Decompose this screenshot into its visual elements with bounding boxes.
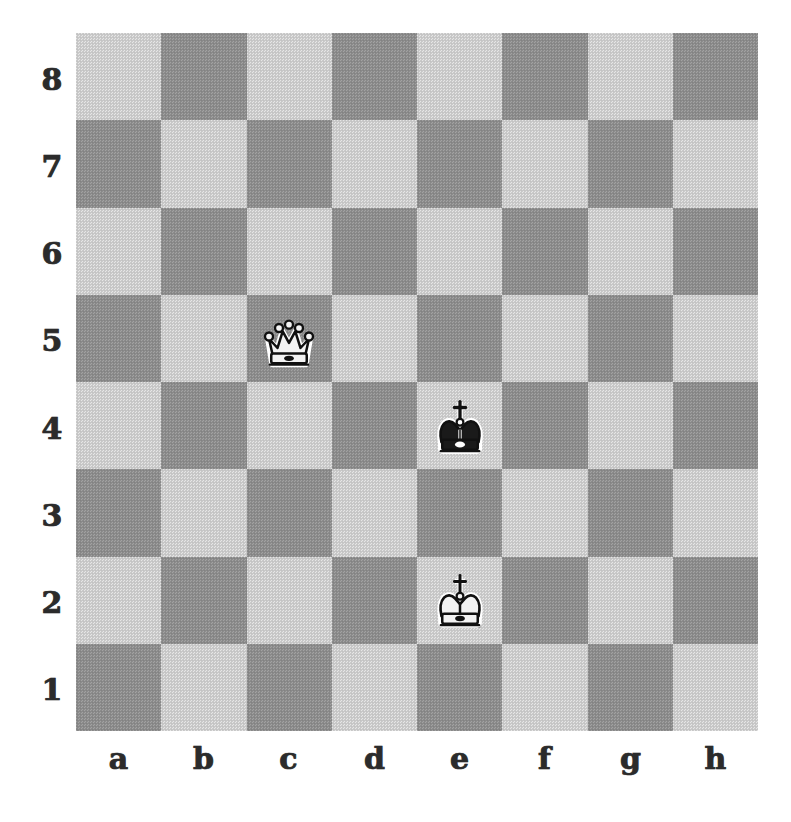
square-d8[interactable]	[332, 33, 417, 120]
square-c1[interactable]	[247, 644, 332, 731]
square-f5[interactable]	[502, 295, 587, 382]
square-f8[interactable]	[502, 33, 587, 120]
square-g5[interactable]	[588, 295, 673, 382]
square-g7[interactable]	[588, 120, 673, 207]
file-label-a: a	[76, 744, 161, 782]
square-c7[interactable]	[247, 120, 332, 207]
square-d3[interactable]	[332, 469, 417, 556]
chess-diagram: 8 7 6 5 4 3 2 1 a b c d e f g h	[0, 0, 791, 822]
chess-board-grid	[76, 33, 758, 731]
square-h8[interactable]	[673, 33, 758, 120]
rank-label-3: 3	[32, 501, 72, 531]
square-e5[interactable]	[417, 295, 502, 382]
rank-label-4: 4	[32, 414, 72, 444]
square-c3[interactable]	[247, 469, 332, 556]
square-e3[interactable]	[417, 469, 502, 556]
square-h5[interactable]	[673, 295, 758, 382]
square-a8[interactable]	[76, 33, 161, 120]
rank-label-8: 8	[32, 65, 72, 95]
square-h7[interactable]	[673, 120, 758, 207]
square-c8[interactable]	[247, 33, 332, 120]
square-c2[interactable]	[247, 557, 332, 644]
square-e2[interactable]	[417, 557, 502, 644]
square-a4[interactable]	[76, 382, 161, 469]
square-d2[interactable]	[332, 557, 417, 644]
square-d7[interactable]	[332, 120, 417, 207]
file-label-d: d	[332, 744, 417, 782]
square-h3[interactable]	[673, 469, 758, 556]
square-a3[interactable]	[76, 469, 161, 556]
square-g8[interactable]	[588, 33, 673, 120]
file-label-h: h	[673, 744, 758, 782]
rank-label-5: 5	[32, 326, 72, 356]
square-a7[interactable]	[76, 120, 161, 207]
square-g2[interactable]	[588, 557, 673, 644]
square-f3[interactable]	[502, 469, 587, 556]
square-b8[interactable]	[161, 33, 246, 120]
file-label-g: g	[588, 744, 673, 782]
square-h4[interactable]	[673, 382, 758, 469]
square-h2[interactable]	[673, 557, 758, 644]
rank-label-6: 6	[32, 239, 72, 269]
square-d4[interactable]	[332, 382, 417, 469]
file-label-b: b	[161, 744, 246, 782]
square-g3[interactable]	[588, 469, 673, 556]
rank-label-1: 1	[32, 675, 72, 705]
square-e8[interactable]	[417, 33, 502, 120]
square-d6[interactable]	[332, 208, 417, 295]
square-c4[interactable]	[247, 382, 332, 469]
file-label-f: f	[502, 744, 587, 782]
square-b6[interactable]	[161, 208, 246, 295]
square-f2[interactable]	[502, 557, 587, 644]
square-d5[interactable]	[332, 295, 417, 382]
black-king-icon[interactable]	[423, 389, 497, 463]
file-label-e: e	[417, 744, 502, 782]
file-label-c: c	[246, 744, 331, 782]
square-e6[interactable]	[417, 208, 502, 295]
square-e1[interactable]	[417, 644, 502, 731]
square-e4[interactable]	[417, 382, 502, 469]
white-queen-icon[interactable]	[252, 301, 326, 375]
square-c5[interactable]	[247, 295, 332, 382]
square-b7[interactable]	[161, 120, 246, 207]
square-h6[interactable]	[673, 208, 758, 295]
square-b2[interactable]	[161, 557, 246, 644]
square-d1[interactable]	[332, 644, 417, 731]
square-e7[interactable]	[417, 120, 502, 207]
square-f7[interactable]	[502, 120, 587, 207]
rank-label-2: 2	[32, 588, 72, 618]
rank-label-7: 7	[32, 152, 72, 182]
square-f6[interactable]	[502, 208, 587, 295]
square-g4[interactable]	[588, 382, 673, 469]
square-a5[interactable]	[76, 295, 161, 382]
square-b1[interactable]	[161, 644, 246, 731]
square-b5[interactable]	[161, 295, 246, 382]
square-a2[interactable]	[76, 557, 161, 644]
square-f1[interactable]	[502, 644, 587, 731]
square-c6[interactable]	[247, 208, 332, 295]
square-f4[interactable]	[502, 382, 587, 469]
white-king-icon[interactable]	[423, 563, 497, 637]
square-b4[interactable]	[161, 382, 246, 469]
square-b3[interactable]	[161, 469, 246, 556]
square-h1[interactable]	[673, 644, 758, 731]
square-a1[interactable]	[76, 644, 161, 731]
square-g1[interactable]	[588, 644, 673, 731]
square-a6[interactable]	[76, 208, 161, 295]
square-g6[interactable]	[588, 208, 673, 295]
